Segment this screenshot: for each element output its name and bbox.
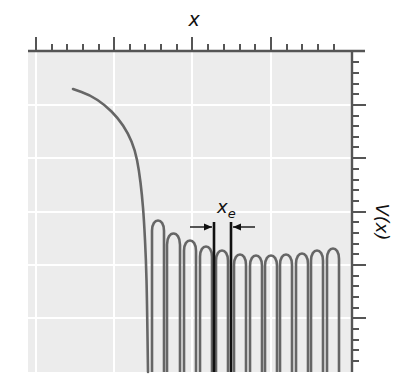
- x-axis-label: x: [187, 8, 200, 30]
- y-axis-label: V(x): [372, 203, 393, 240]
- potential-diagram: x V(x) xe: [0, 0, 404, 388]
- xe-subscript: e: [228, 206, 236, 221]
- xe-main: x: [216, 196, 228, 217]
